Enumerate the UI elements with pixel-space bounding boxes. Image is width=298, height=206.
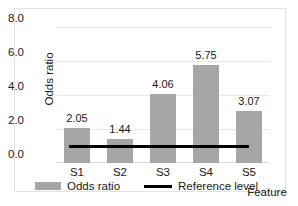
legend-entry-reference-level[interactable]: Reference level (144, 180, 258, 192)
gridline-8 (56, 27, 270, 28)
legend-swatch-line-icon (144, 185, 172, 188)
legend-label-reference-level: Reference level (178, 180, 258, 192)
y-tick-label-0: 0.0 (0, 149, 24, 160)
bar-value-label-s4: 5.75 (183, 50, 229, 61)
bar-s2[interactable] (107, 139, 133, 163)
bar-s5[interactable] (236, 111, 262, 163)
x-tick-label-s1: S1 (54, 166, 100, 178)
bar-value-label-s1: 2.05 (54, 113, 100, 124)
bar-value-label-s3: 4.06 (140, 79, 186, 90)
legend-swatch-bar-icon (35, 182, 61, 190)
chart-legend: Odds ratio Reference level (35, 180, 258, 192)
legend-label-odds-ratio: Odds ratio (67, 180, 120, 192)
y-tick-label-8: 8.0 (0, 13, 24, 24)
bar-value-label-s5: 3.07 (226, 96, 272, 107)
bar-s4[interactable] (193, 65, 219, 163)
bar-value-label-s2: 1.44 (97, 124, 143, 135)
gridline-6 (56, 61, 270, 62)
x-tick-label-s4: S4 (183, 166, 229, 178)
chart-frame: Odds ratio 8.0 6.0 4.0 2.0 0.0 2.05 1.44… (14, 8, 286, 192)
x-tick-label-s2: S2 (97, 166, 143, 178)
y-tick-label-6: 6.0 (0, 47, 24, 58)
x-tick-label-s3: S3 (140, 166, 186, 178)
bar-s3[interactable] (150, 94, 176, 163)
legend-entry-odds-ratio[interactable]: Odds ratio (35, 180, 120, 192)
reference-level-line (69, 145, 249, 148)
plot-area: 2.05 1.44 4.06 5.75 3.07 (56, 27, 270, 163)
y-tick-label-2: 2.0 (0, 115, 24, 126)
y-tick-label-4: 4.0 (0, 81, 24, 92)
x-tick-label-s5: S5 (226, 166, 272, 178)
y-axis-title: Odds ratio (43, 39, 55, 119)
